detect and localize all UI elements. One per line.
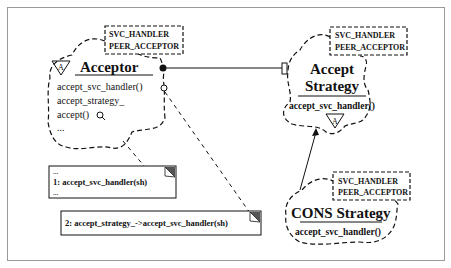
note1-connector [123, 141, 145, 167]
note2-connector [165, 92, 250, 213]
cons-strategy-param-1: SVC_HANDLER [338, 177, 398, 186]
note-anchor-circle-icon [161, 85, 167, 91]
note2-line-1: 2: accept_strategy_->accept_svc_handler(… [65, 218, 228, 228]
accept-strategy-param-2: PEER_ACCEPTOR [335, 43, 405, 52]
accept-strategy-name-line2: Strategy [305, 78, 360, 94]
svg-text:A: A [332, 117, 338, 126]
note1-line-2: 1: accept_svc_handler(sh) [53, 177, 147, 187]
inheritance-arrow [300, 128, 319, 190]
accept-strategy-name-line1: Accept [310, 61, 354, 77]
acceptor-member-accept-svc-handler: accept_svc_handler() [57, 81, 143, 93]
acceptor-class-name: Acceptor [80, 59, 139, 75]
cons-strategy-param-2: PEER_ACCEPTOR [338, 188, 408, 197]
abstract-triangle-icon: A [326, 114, 344, 128]
accept-strategy-param-1: SVC_HANDLER [335, 31, 395, 40]
acceptor-member-accept-strategy: accept_strategy_ [57, 95, 125, 106]
note-1: ... 1: accept_svc_handler(sh) ... [49, 166, 176, 198]
parameter-box-icon [282, 63, 287, 74]
acceptor-param-1: SVC_HANDLER [109, 30, 169, 39]
acceptor-cloud-outline [48, 39, 165, 149]
note-2: 2: accept_strategy_->accept_svc_handler(… [61, 211, 261, 235]
acceptor-class[interactable]: SVC_HANDLER PEER_ACCEPTOR A Acceptor acc… [48, 26, 183, 149]
note1-line-3: ... [53, 189, 59, 197]
class-diagram: SVC_HANDLER PEER_ACCEPTOR A Acceptor acc… [0, 0, 451, 268]
accept-strategy-member: accept_svc_handler() [289, 101, 375, 112]
aggregation-dot-icon [160, 65, 167, 72]
arrowhead-icon [312, 128, 319, 136]
note1-line-1: ... [53, 168, 59, 176]
acceptor-member-accept: accept() [57, 109, 89, 121]
aggregation-link [160, 63, 288, 74]
svg-text:A: A [58, 63, 64, 72]
acceptor-param-2: PEER_ACCEPTOR [109, 42, 179, 51]
cons-strategy-name: CONS Strategy [291, 205, 391, 221]
accept-strategy-class[interactable]: SVC_HANDLER PEER_ACCEPTOR Accept Strateg… [284, 27, 408, 134]
cons-strategy-class[interactable]: SVC_HANDLER PEER_ACCEPTOR CONS Strategy … [286, 172, 410, 244]
acceptor-member-ellipsis: ... [57, 122, 65, 133]
cons-strategy-member: accept_svc_handler() [295, 227, 381, 238]
